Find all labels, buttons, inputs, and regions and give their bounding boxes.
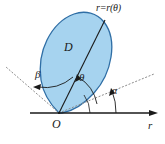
alpha-angle-label: α [112,86,117,96]
r-axis-arrowhead [149,110,158,116]
polar-region-figure: r=r(θ) D θ β α O r [0,0,165,144]
curve-equation-label: r=r(θ) [96,3,121,13]
theta-angle-label: θ [79,72,84,83]
origin-label: O [52,118,61,130]
beta-arc-arrowhead [33,84,41,90]
region-d-label: D [64,41,73,53]
origin-point [58,112,60,114]
beta-angle-label: β [35,69,40,80]
r-axis-label: r [148,120,152,131]
